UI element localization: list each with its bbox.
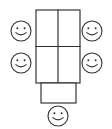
face-outline: [82, 21, 102, 41]
seat-left-bottom[interactable]: [11, 53, 31, 73]
face-eye-right-icon: [61, 112, 63, 114]
face-eye-right-icon: [95, 59, 97, 61]
seat-right-bottom[interactable]: [82, 53, 102, 73]
face-eye-left-icon: [16, 27, 18, 29]
face-eye-left-icon: [87, 59, 89, 61]
face-outline: [11, 21, 31, 41]
face-eye-right-icon: [24, 59, 26, 61]
face-outline: [82, 53, 102, 73]
face-eye-right-icon: [24, 27, 26, 29]
face-eye-left-icon: [53, 112, 55, 114]
seat-right-top[interactable]: [82, 21, 102, 41]
seat-left-top[interactable]: [11, 21, 31, 41]
face-eye-left-icon: [16, 59, 18, 61]
face-outline: [11, 53, 31, 73]
main-table: [36, 10, 80, 83]
seat-head[interactable]: [48, 106, 68, 126]
head-panel: [41, 83, 76, 103]
seating-diagram: [0, 0, 112, 129]
head-panel-outline: [41, 83, 76, 103]
diagram-canvas: Table seating arrangement: [0, 0, 112, 129]
face-outline: [48, 106, 68, 126]
face-eye-right-icon: [95, 27, 97, 29]
face-eye-left-icon: [87, 27, 89, 29]
